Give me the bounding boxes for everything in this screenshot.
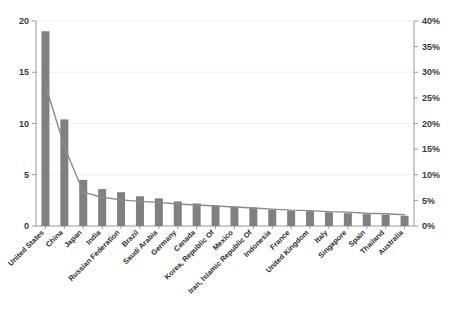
y-axis-right-tick-label: 15% bbox=[422, 144, 440, 154]
y-axis-left-tick-label: 10 bbox=[19, 119, 29, 129]
bar[interactable] bbox=[174, 201, 182, 226]
bar-group bbox=[268, 210, 276, 226]
y-axis-right-tick-label: 10% bbox=[422, 170, 440, 180]
bar[interactable] bbox=[249, 208, 257, 226]
bar-group bbox=[98, 189, 106, 226]
bar-group bbox=[306, 211, 314, 226]
bar-group bbox=[174, 201, 182, 226]
y-axis-left-tick-label: 15 bbox=[19, 67, 29, 77]
bar[interactable] bbox=[193, 203, 201, 226]
bar-group bbox=[401, 216, 409, 226]
y-axis-left-tick-label: 20 bbox=[19, 16, 29, 26]
bar[interactable] bbox=[306, 211, 314, 226]
bar[interactable] bbox=[212, 206, 220, 227]
bar-group bbox=[193, 203, 201, 226]
y-axis-right-tick-label: 30% bbox=[422, 67, 440, 77]
y-axis-left-tick-label: 5 bbox=[24, 170, 29, 180]
y-axis-right-tick-label: 35% bbox=[422, 42, 440, 52]
bar[interactable] bbox=[344, 213, 352, 226]
x-axis-category-label: China bbox=[44, 227, 66, 249]
bar[interactable] bbox=[287, 211, 295, 226]
bar[interactable] bbox=[382, 215, 390, 226]
x-axis-category-label: Japan bbox=[62, 228, 84, 250]
bar-group bbox=[41, 31, 49, 226]
y-axis-right-tick-label: 40% bbox=[422, 16, 440, 26]
y-axis-right-tick-label: 5% bbox=[422, 196, 435, 206]
bar-group bbox=[325, 212, 333, 226]
y-axis-right-tick-label: 25% bbox=[422, 93, 440, 103]
y-axis-right-tick-label: 0% bbox=[422, 221, 435, 231]
bar[interactable] bbox=[230, 207, 238, 226]
bar-group bbox=[212, 206, 220, 227]
bar-group bbox=[117, 192, 125, 226]
bar-group bbox=[363, 214, 371, 226]
bar-group bbox=[230, 207, 238, 226]
y-axis-right-tick-label: 20% bbox=[422, 119, 440, 129]
bar[interactable] bbox=[363, 214, 371, 226]
chart-container: 051015200%5%10%15%20%25%30%35%40%United … bbox=[0, 0, 473, 315]
bar-group bbox=[249, 208, 257, 226]
bar[interactable] bbox=[98, 189, 106, 226]
x-axis-category-label: United States bbox=[6, 228, 46, 268]
combo-chart: 051015200%5%10%15%20%25%30%35%40%United … bbox=[0, 0, 473, 315]
bar-group bbox=[382, 215, 390, 226]
y-axis-left-tick-label: 0 bbox=[24, 221, 29, 231]
bar-group bbox=[344, 213, 352, 226]
bar[interactable] bbox=[401, 216, 409, 226]
bar[interactable] bbox=[268, 210, 276, 226]
bar[interactable] bbox=[41, 31, 49, 226]
bar-group bbox=[287, 211, 295, 226]
bar[interactable] bbox=[117, 192, 125, 226]
bar[interactable] bbox=[325, 212, 333, 226]
